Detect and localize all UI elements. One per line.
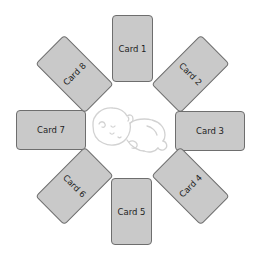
sleeping-baby-icon [89, 104, 171, 156]
card-5-label: Card 5 [118, 207, 146, 217]
card-2-label: Card 2 [177, 61, 204, 88]
card-8[interactable]: Card 8 [35, 35, 113, 113]
card-7[interactable]: Card 7 [16, 110, 86, 150]
card-8-label: Card 8 [61, 61, 88, 88]
card-1[interactable]: Card 1 [112, 15, 153, 82]
card-4-label: Card 4 [177, 173, 204, 200]
card-5[interactable]: Card 5 [111, 178, 152, 245]
card-6[interactable]: Card 6 [35, 147, 113, 225]
card-7-label: Card 7 [37, 125, 65, 135]
card-6-label: Card 6 [61, 173, 88, 200]
card-4[interactable]: Card 4 [151, 147, 229, 225]
card-1-label: Card 1 [119, 44, 147, 54]
card-3[interactable]: Card 3 [175, 111, 245, 151]
card-3-label: Card 3 [196, 126, 224, 136]
card-2[interactable]: Card 2 [151, 35, 229, 113]
